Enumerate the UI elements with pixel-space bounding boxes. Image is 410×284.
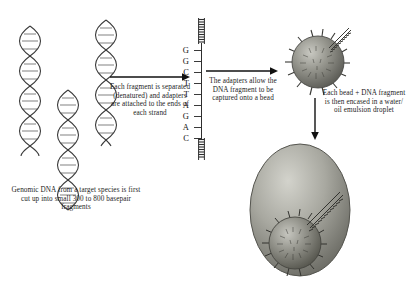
step3-caption: Each bead + DNA fragment is then encased… [320,89,408,115]
base-letter-5: T [179,90,189,99]
dna-helix-1 [22,26,56,156]
base-tick [194,50,201,51]
base-tick [194,72,201,73]
step2-caption: The adapters allow the DNA fragment to b… [204,77,282,103]
ssdna-backbone [201,43,202,139]
top-adapter-icon [197,18,206,44]
step3-arrow [310,98,320,140]
genomic-dna-caption: Genomic DNA from a target species is fir… [8,186,144,212]
base-tick [194,127,201,128]
base-letter-1: G [179,46,189,55]
emulsion-droplet [240,140,366,280]
base-letter-2: G [179,57,189,66]
base-letter-6: A [179,101,189,110]
base-tick [194,83,201,84]
base-tick [194,61,201,62]
base-letter-9: C [179,134,189,143]
base-tick [194,116,201,117]
base-tick [194,94,201,95]
base-letter-8: A [179,123,189,132]
base-letter-3: C [179,68,189,77]
step2-arrow [206,66,278,76]
base-tick [194,105,201,106]
bottom-adapter-icon [197,138,206,160]
base-letter-7: G [179,112,189,121]
step1-arrow [110,72,190,82]
figure-canvas: Genomic DNA from a target species is fir… [0,0,410,284]
base-letter-4: T [179,79,189,88]
